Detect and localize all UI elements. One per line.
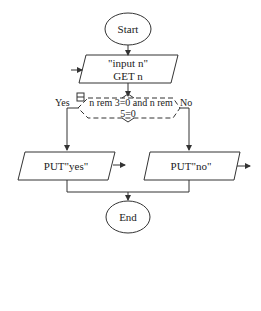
- input-line1: "input n": [108, 57, 148, 69]
- put-yes-label: PUT"yes": [44, 160, 88, 172]
- put-no-node: PUT"no": [144, 152, 240, 180]
- decision-line2: 5=0: [120, 108, 136, 119]
- flowchart: Start "input n" GET n n rem 3=0 and n re…: [0, 0, 261, 311]
- end-node: End: [106, 201, 150, 233]
- start-label: Start: [118, 23, 139, 35]
- input-line2: GET n: [113, 70, 143, 82]
- yes-label: Yes: [55, 97, 70, 108]
- decision-line1: n rem 3=0 and n rem: [89, 97, 173, 108]
- edge-decision-yes: [67, 108, 78, 150]
- edge-decision-no: [180, 108, 189, 150]
- input-node: "input n" GET n: [79, 55, 178, 83]
- end-label: End: [119, 211, 137, 223]
- breakpoint-icon: [77, 93, 84, 101]
- put-no-label: PUT"no": [171, 160, 212, 172]
- put-yes-node: PUT"yes": [18, 152, 115, 180]
- no-label: No: [180, 97, 192, 108]
- decision-node: n rem 3=0 and n rem 5=0: [78, 94, 180, 122]
- edge-yes-merge: [67, 180, 189, 192]
- start-node: Start: [105, 13, 151, 45]
